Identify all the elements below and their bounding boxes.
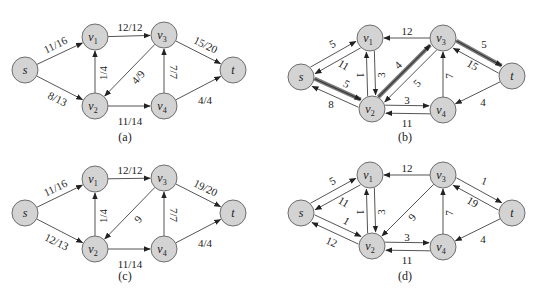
node-v2: v2 bbox=[82, 93, 108, 119]
edge-label: 5 bbox=[341, 77, 352, 90]
node-s: s bbox=[12, 57, 38, 83]
edge-s-to-v2: 8/13 bbox=[37, 76, 83, 109]
flow-network-figure: 11/168/131/412/124/911/147/715/204/4sv1v… bbox=[0, 0, 539, 299]
panel-caption: (d) bbox=[398, 269, 412, 283]
edge-label: 11 bbox=[336, 194, 351, 210]
edge-label: 3 bbox=[375, 72, 387, 78]
node-v4: v4 bbox=[151, 93, 177, 119]
edge-s-to-v1: 11/16 bbox=[37, 34, 83, 65]
edge-t-to-v4: 4 bbox=[456, 219, 501, 245]
edge-label: 1 bbox=[355, 209, 367, 215]
node-v1: v1 bbox=[357, 25, 383, 51]
edge-label: 11/16 bbox=[42, 34, 70, 56]
edge-label: 11 bbox=[402, 117, 413, 129]
edge-v2-to-v3: 4 bbox=[378, 45, 430, 97]
edge-label: 4/4 bbox=[198, 94, 213, 106]
node-v3: v3 bbox=[430, 25, 456, 51]
edge-v1-to-v2: 1 bbox=[355, 188, 375, 232]
edge-label: 4/4 bbox=[198, 237, 213, 249]
node-v3: v3 bbox=[430, 162, 456, 188]
edge-label: 12/12 bbox=[117, 164, 142, 176]
node-label: s bbox=[23, 63, 28, 77]
panel-caption: (b) bbox=[398, 130, 412, 144]
node-v2: v2 bbox=[359, 96, 385, 122]
edge-label: 7/7 bbox=[168, 208, 180, 223]
node-v3: v3 bbox=[151, 165, 177, 191]
edge-label: 1 bbox=[480, 174, 489, 187]
node-t: t bbox=[220, 57, 246, 83]
edge-label: 1/4 bbox=[97, 65, 109, 80]
edge-label: 12 bbox=[402, 25, 413, 37]
panel-caption: (c) bbox=[118, 269, 131, 283]
edge-v1-to-v3: 12/12 bbox=[108, 21, 150, 37]
node-t: t bbox=[499, 200, 525, 226]
edge-v3-to-v1: 12 bbox=[384, 25, 430, 38]
edge-v4-to-v3: 7 bbox=[443, 189, 455, 234]
edge-v2-to-v4: 11/14 bbox=[108, 106, 150, 127]
edge-v1-to-v2: 1 bbox=[355, 51, 375, 95]
node-label: s bbox=[299, 70, 304, 84]
edge-s-to-v2: 1 bbox=[314, 214, 361, 236]
edge-v3-to-v2: 9 bbox=[105, 187, 155, 239]
panel-d-residual-network-final: 5111121312931171194sv1v2v3v4t(d) bbox=[288, 162, 525, 283]
edge-v3-to-t: 15/20 bbox=[176, 34, 221, 64]
edge-v2-to-v4: 3 bbox=[385, 231, 429, 243]
edge-v3-to-v2: 5 bbox=[385, 50, 437, 102]
edge-label: 8 bbox=[328, 98, 334, 110]
edge-v4-to-v3: 7/7 bbox=[164, 192, 180, 236]
node-t: t bbox=[499, 63, 525, 89]
edge-v4-to-t: 4/4 bbox=[176, 219, 221, 248]
edge-label: 11 bbox=[336, 57, 351, 73]
node-s: s bbox=[288, 64, 314, 90]
edge-label: 11/14 bbox=[118, 115, 143, 127]
node-s: s bbox=[12, 200, 38, 226]
edge-label: 11/14 bbox=[118, 258, 143, 270]
edge-v2-to-v4: 11/14 bbox=[108, 249, 150, 270]
edge-v2-to-v1: 3 bbox=[366, 189, 386, 233]
edge-label: 12 bbox=[324, 234, 339, 250]
panel-a-flow-network: 11/168/131/412/124/911/147/715/204/4sv1v… bbox=[12, 21, 246, 144]
edge-v2-to-v1: 1/4 bbox=[95, 193, 109, 236]
node-v2: v2 bbox=[359, 233, 385, 259]
edge-label: 4 bbox=[392, 58, 405, 71]
node-v1: v1 bbox=[82, 24, 108, 50]
edge-label: 15 bbox=[465, 57, 481, 73]
node-v3: v3 bbox=[151, 22, 177, 48]
edge-s-to-v1: 11/16 bbox=[37, 177, 83, 208]
edge-label: 1 bbox=[355, 72, 367, 78]
edge-label: 9 bbox=[132, 213, 145, 225]
edge-v3-to-v2: 9 bbox=[382, 184, 434, 236]
edge-label: 15/20 bbox=[192, 34, 220, 56]
edge-v3-to-v1: 12 bbox=[384, 162, 430, 175]
edge-label: 3 bbox=[375, 209, 387, 215]
edge-label: 5 bbox=[481, 38, 487, 50]
edge-v4-to-v2: 11 bbox=[386, 113, 430, 128]
edge-v2-to-s: 12 bbox=[312, 223, 359, 250]
edge-v3-to-t: 19/20 bbox=[176, 177, 221, 207]
edge-label: 7 bbox=[443, 210, 455, 216]
edge-t-to-v4: 4 bbox=[456, 82, 501, 108]
node-v2: v2 bbox=[82, 236, 108, 262]
edge-v3-to-v2: 4/9 bbox=[105, 44, 155, 96]
edge-label: 12 bbox=[402, 162, 413, 174]
edge-label: 4 bbox=[480, 96, 486, 108]
edge-s-to-v2: 12/13 bbox=[37, 219, 83, 253]
edge-label: 11/16 bbox=[42, 177, 70, 199]
edge-label: 8/13 bbox=[46, 89, 69, 109]
edge-v4-to-t: 4/4 bbox=[176, 76, 221, 105]
edge-label: 7 bbox=[443, 73, 455, 79]
edge-label: 4 bbox=[480, 233, 486, 245]
edge-label: 3 bbox=[404, 94, 410, 106]
node-label: s bbox=[23, 206, 28, 220]
panel-c-flow-network-augmented: 11/1612/131/412/12911/147/719/204/4sv1v2… bbox=[12, 164, 246, 283]
node-v1: v1 bbox=[82, 166, 108, 192]
edge-label: 1/4 bbox=[97, 208, 109, 223]
node-v4: v4 bbox=[430, 234, 456, 260]
edge-label: 9 bbox=[406, 211, 419, 223]
edge-v2-to-v1: 1/4 bbox=[95, 51, 109, 93]
edge-label: 5 bbox=[411, 76, 424, 89]
node-s: s bbox=[288, 200, 314, 226]
edge-label: 12/12 bbox=[117, 21, 142, 33]
node-t: t bbox=[220, 200, 246, 226]
edge-v4-to-v2: 11 bbox=[386, 250, 430, 265]
